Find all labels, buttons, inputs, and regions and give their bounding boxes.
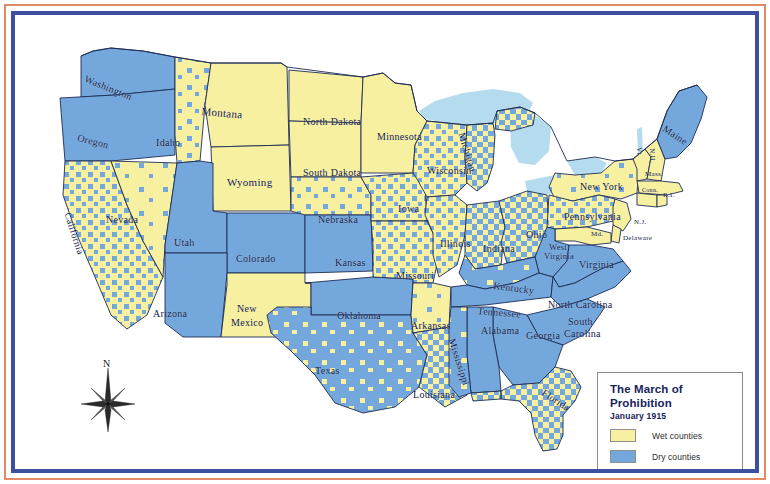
state-label-missouri: Missouri	[396, 270, 434, 281]
state-label-north-dakota: North Dakota	[303, 116, 361, 127]
state-label-minnesota: Minnesota	[377, 131, 422, 142]
state-label-ohio: Ohio	[526, 229, 547, 240]
state-label-kansas: Kansas	[335, 257, 366, 268]
map-page: WashingtonOregonIdahoMontanaWyomingNevad…	[0, 0, 770, 484]
state-label-conn: Conn.	[642, 187, 658, 193]
state-label-delaware: Delaware	[623, 234, 652, 242]
state-label-pennsylvania: Pennsylvania	[564, 211, 621, 222]
state-label-south: South	[568, 316, 593, 327]
state-label-colorado: Colorado	[236, 253, 276, 264]
state-label-n-h: N.H.	[648, 148, 657, 163]
legend-subtitle: January 1915	[610, 411, 731, 421]
state-label-carolina: Carolina	[564, 328, 601, 339]
state-label-r-i: R.I.	[663, 191, 675, 199]
state-label-wyoming: Wyoming	[227, 176, 272, 188]
legend-row-wet: Wet counties	[610, 429, 731, 442]
state-label-arizona: Arizona	[153, 308, 187, 319]
wet-counties-label: Wet counties	[652, 431, 702, 441]
state-indiana	[465, 201, 505, 269]
state-label-georgia: Georgia	[526, 330, 560, 341]
state-label-iowa: Iowa	[398, 203, 419, 214]
map-canvas: WashingtonOregonIdahoMontanaWyomingNevad…	[15, 15, 755, 469]
state-nebraska	[291, 177, 371, 215]
state-oregon	[60, 89, 175, 161]
state-label-new: New	[237, 303, 257, 314]
state-label-utah: Utah	[174, 237, 195, 248]
state-label-texas: Texas	[315, 365, 340, 376]
wet-counties-swatch	[610, 429, 636, 442]
state-label-nebraska: Nebraska	[318, 214, 358, 225]
state-label-south-dakota: South Dakota	[303, 167, 361, 178]
state-label-indiana: Indiana	[483, 243, 515, 254]
state-label-virginia: Virginia	[579, 259, 614, 270]
state-texas	[267, 307, 427, 413]
state-label-louisiana: Louisiana	[413, 389, 455, 400]
map-legend: The March of Prohibition January 1915 We…	[597, 372, 743, 469]
state-label-nevada: Nevada	[106, 214, 138, 225]
state-label-vt: Vt.	[635, 147, 643, 157]
legend-title: The March of Prohibition	[610, 382, 731, 410]
state-label-new-york: New York	[580, 181, 623, 192]
compass-rose: N	[77, 360, 139, 436]
state-label-idaho: Idaho	[156, 137, 180, 148]
state-label-md: Md.	[591, 230, 603, 238]
dry-counties-swatch	[610, 450, 636, 463]
state-colorado	[227, 213, 305, 273]
state-label-alabama: Alabama	[481, 325, 519, 336]
compass-rose-icon	[77, 360, 139, 436]
state-montana	[205, 63, 289, 147]
state-maine	[657, 85, 707, 159]
state-connecticut	[637, 193, 657, 207]
state-label-mass: Mass.	[645, 170, 663, 178]
state-label-wisconsin: Wisconsin	[427, 165, 472, 176]
state-label-virginia: Virginia	[544, 251, 574, 261]
dry-counties-label: Dry counties	[652, 452, 700, 462]
state-label-north-carolina: North Carolina	[548, 299, 612, 310]
state-label-arkansas: Arkansas	[411, 320, 451, 331]
state-arizona	[165, 253, 227, 337]
state-label-oklahoma: Oklahoma	[337, 310, 381, 321]
legend-row-dry: Dry counties	[610, 450, 731, 463]
state-label-illinois: Illinois	[440, 238, 471, 249]
state-label-n-j: N.J.	[634, 218, 646, 226]
compass-north-label: N	[103, 358, 110, 369]
state-label-mexico: Mexico	[231, 317, 263, 328]
